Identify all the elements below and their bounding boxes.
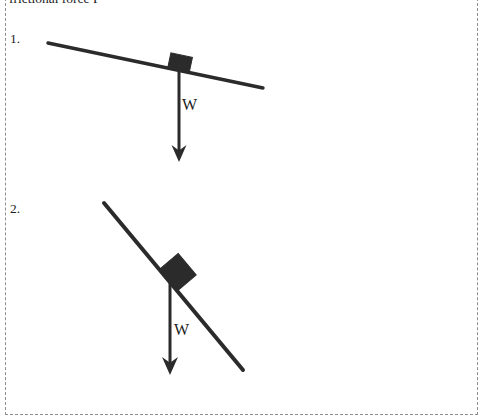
incline-surface-line-2 — [104, 203, 243, 370]
incline-surface-line-1 — [48, 43, 263, 88]
free-body-diagrams — [0, 0, 483, 420]
free-body-diagram-1 — [48, 43, 263, 162]
block-mass-2 — [160, 254, 196, 291]
worksheet-page: frictional force F 1. 2. W W — [0, 0, 483, 420]
free-body-diagram-2 — [104, 203, 243, 375]
